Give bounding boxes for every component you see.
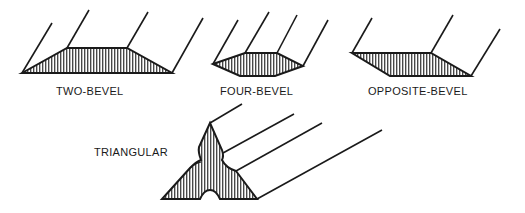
four-bevel-cross-section <box>213 53 303 76</box>
opposite-bevel-figure <box>352 15 500 76</box>
two-bevel-label: TWO-BEVEL <box>56 85 124 97</box>
triangular-figure <box>162 104 382 199</box>
two-bevel-cross-section <box>22 48 172 73</box>
bevel-diagram <box>0 0 525 213</box>
triangular-label: TRIANGULAR <box>94 146 168 158</box>
four-bevel-label: FOUR-BEVEL <box>220 85 293 97</box>
opposite-bevel-label: OPPOSITE-BEVEL <box>368 85 468 97</box>
two-bevel-figure <box>22 10 203 73</box>
triangular-cross-section <box>162 123 257 199</box>
opposite-bevel-cross-section <box>352 53 471 76</box>
four-bevel-figure <box>213 12 328 76</box>
